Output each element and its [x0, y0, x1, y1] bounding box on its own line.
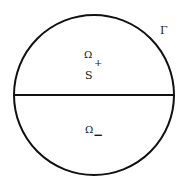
- interface-label: S: [85, 69, 93, 82]
- upper-region-subscript: +: [94, 57, 102, 68]
- lower-region-subscript: −: [93, 128, 103, 142]
- domain-diagram: Γ Ω + S Ω −: [0, 0, 186, 195]
- upper-region-symbol: Ω: [84, 49, 92, 60]
- boundary-label: Γ: [160, 24, 168, 37]
